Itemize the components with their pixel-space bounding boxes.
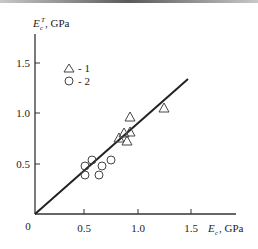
x-axis-title: E c , GPa: [207, 222, 244, 237]
svg-text:E: E: [207, 222, 215, 234]
x-tick-label: 1.5: [184, 222, 198, 234]
svg-text:- 1: - 1: [78, 62, 90, 74]
origin-label: 0: [25, 220, 31, 232]
y-tick-label: 0.5: [16, 158, 30, 170]
y-tick-label: 1.0: [16, 107, 30, 119]
x-ticks: [84, 209, 191, 214]
svg-text:c: c: [40, 24, 44, 32]
svg-text:E: E: [32, 17, 40, 29]
series-1-points: [114, 103, 169, 145]
fit-line: [35, 79, 188, 214]
y-tick-label: 1.5: [16, 57, 30, 69]
legend: - 1 - 2: [64, 62, 90, 87]
triangle-marker-icon: [64, 64, 74, 72]
y-axis-title: E c T , GPa: [32, 16, 70, 32]
svg-text:- 2: - 2: [78, 75, 90, 87]
svg-text:, GPa: , GPa: [45, 17, 70, 29]
x-tick-label: 0.5: [77, 222, 91, 234]
x-tick-label: 1.0: [131, 222, 145, 234]
y-ticks: [35, 63, 40, 164]
circle-marker-icon: [65, 77, 73, 85]
scatter-chart: 0 0.5 1.0 1.5 0.5 1.0 1.5 E c T , GPa E …: [0, 0, 258, 249]
svg-text:, GPa: , GPa: [219, 222, 244, 234]
